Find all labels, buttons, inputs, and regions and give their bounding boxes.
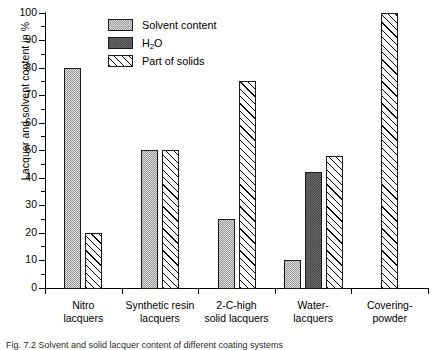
bar-solids bbox=[381, 13, 398, 289]
legend-label-solids: Part of solids bbox=[142, 56, 204, 67]
figure-caption: Fig. 7.2 Solvent and solid lacquer conte… bbox=[6, 340, 283, 350]
y-tick-major bbox=[39, 233, 45, 234]
y-tick-minor bbox=[41, 26, 45, 27]
y-tick-minor bbox=[41, 274, 45, 275]
bar-solvent bbox=[64, 68, 81, 289]
x-group-tick bbox=[351, 288, 352, 294]
y-tick-label: 90 bbox=[11, 34, 37, 45]
y-tick-minor bbox=[41, 81, 45, 82]
y-tick-major bbox=[39, 95, 45, 96]
legend-item-solids: Part of solids bbox=[108, 53, 216, 70]
bar-chart: Lacquer and solvent content in % 0102030… bbox=[0, 0, 441, 350]
y-tick-label: 0 bbox=[11, 282, 37, 293]
y-tick-minor bbox=[41, 109, 45, 110]
x-group-tick bbox=[122, 288, 123, 294]
y-tick-minor bbox=[41, 164, 45, 165]
legend-swatch-solids-icon bbox=[108, 55, 133, 67]
bar-solvent bbox=[284, 260, 301, 289]
x-category-label: Covering-powder bbox=[337, 299, 441, 324]
bar-solids bbox=[239, 81, 256, 289]
legend-swatch-h2o-icon bbox=[108, 37, 133, 49]
y-tick-major bbox=[39, 68, 45, 69]
y-tick-label: 20 bbox=[11, 227, 37, 238]
y-tick-label: 10 bbox=[11, 254, 37, 265]
legend-item-h2o: H2O bbox=[108, 35, 216, 52]
y-tick-major bbox=[39, 150, 45, 151]
y-axis-line bbox=[45, 12, 46, 289]
x-category-line1: Covering- bbox=[337, 299, 441, 312]
y-tick-label: 80 bbox=[11, 62, 37, 73]
y-tick-minor bbox=[41, 246, 45, 247]
y-tick-major bbox=[39, 123, 45, 124]
x-group-tick bbox=[198, 288, 199, 294]
y-tick-label: 100 bbox=[11, 7, 37, 18]
y-tick-major bbox=[39, 205, 45, 206]
y-tick-major bbox=[39, 260, 45, 261]
bar-solids bbox=[326, 156, 343, 289]
y-tick-minor bbox=[41, 136, 45, 137]
legend-label-solvent: Solvent content bbox=[142, 20, 216, 31]
y-tick-minor bbox=[41, 54, 45, 55]
y-tick-label: 70 bbox=[11, 89, 37, 100]
x-category-line2: powder bbox=[337, 312, 441, 325]
y-tick-label: 50 bbox=[11, 144, 37, 155]
y-tick-major bbox=[39, 13, 45, 14]
x-axis-line bbox=[45, 288, 428, 289]
legend-label-h2o: H2O bbox=[142, 38, 162, 49]
legend-swatch-solvent-icon bbox=[108, 19, 133, 31]
legend: Solvent content H2O Part of solids bbox=[108, 17, 216, 71]
y-tick-major bbox=[39, 178, 45, 179]
y-tick-major bbox=[39, 40, 45, 41]
y-tick-minor bbox=[41, 219, 45, 220]
bar-solids bbox=[85, 233, 102, 289]
x-group-tick bbox=[428, 288, 429, 294]
plot-area: 0102030405060708090100 bbox=[45, 12, 428, 289]
bar-solvent bbox=[218, 219, 235, 289]
x-group-tick bbox=[275, 288, 276, 294]
x-group-tick bbox=[45, 288, 46, 294]
y-tick-label: 60 bbox=[11, 117, 37, 128]
bar-h2o bbox=[305, 172, 322, 289]
bar-solids bbox=[162, 150, 179, 289]
y-tick-label: 40 bbox=[11, 172, 37, 183]
bar-solvent bbox=[141, 150, 158, 289]
legend-item-solvent: Solvent content bbox=[108, 17, 216, 34]
y-tick-minor bbox=[41, 191, 45, 192]
y-tick-label: 30 bbox=[11, 199, 37, 210]
